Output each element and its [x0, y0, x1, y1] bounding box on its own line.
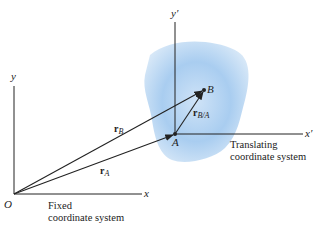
- translating-caption-1: Translating: [230, 139, 278, 150]
- rB-label: rB: [114, 123, 123, 136]
- point-B-label: B: [207, 83, 214, 95]
- translating-caption-2: coordinate system: [230, 151, 306, 162]
- rA-label: rA: [100, 165, 109, 178]
- fixed-caption-1: Fixed: [48, 200, 73, 211]
- x-prime-label: x′: [304, 127, 313, 139]
- y-label: y: [10, 70, 16, 82]
- relative-motion-diagram: y x O Fixed coordinate system y′ x′ A B …: [0, 0, 322, 229]
- fixed-caption-2: coordinate system: [48, 212, 124, 223]
- origin-O-label: O: [4, 198, 12, 210]
- y-prime-label: y′: [170, 7, 179, 19]
- vector-rA: [14, 135, 173, 194]
- point-A-label: A: [171, 136, 179, 148]
- x-label: x: [143, 187, 149, 199]
- point-B: [202, 88, 206, 92]
